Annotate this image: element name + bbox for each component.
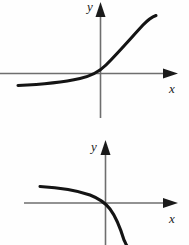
bottom-exponential-curve <box>40 187 127 245</box>
bottom-y-axis-label: y <box>89 139 97 154</box>
top-x-axis-label: x <box>168 81 175 96</box>
bottom-y-axis-arrowhead <box>101 140 111 155</box>
bottom-x-axis-arrowhead <box>163 198 178 208</box>
top-x-axis-arrowhead <box>163 69 178 79</box>
top-y-axis-arrowhead <box>96 2 106 17</box>
figure-root: y x y x <box>0 0 189 245</box>
top-y-axis-label: y <box>85 0 93 14</box>
bottom-graph-panel: y x <box>0 122 189 245</box>
bottom-x-axis-label: x <box>168 211 175 226</box>
top-graph-panel: y x <box>0 0 189 122</box>
top-exponential-curve <box>18 16 156 86</box>
